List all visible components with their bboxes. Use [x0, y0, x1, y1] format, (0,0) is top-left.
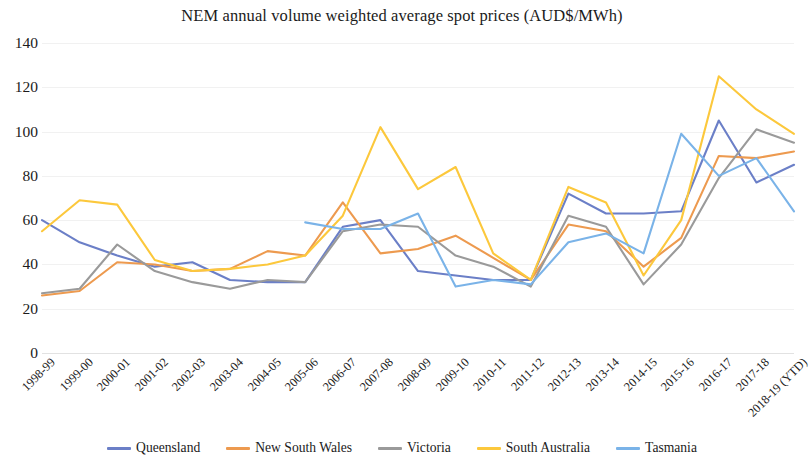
x-axis-tick-7: 2005-06	[282, 355, 322, 395]
x-axis-tick-17: 2015-16	[658, 355, 698, 395]
y-axis-tick-1: 20	[23, 300, 39, 318]
legend-label: South Australia	[506, 440, 590, 456]
x-axis-tick-5: 2003-04	[207, 355, 247, 395]
y-axis-tick-6: 120	[15, 78, 38, 96]
x-axis-tick-10: 2008-09	[395, 355, 435, 395]
legend-item-new-south-wales[interactable]: New South Wales	[226, 440, 352, 456]
x-axis-tick-15: 2013-14	[583, 355, 623, 395]
x-axis-tick-0: 1998-99	[19, 355, 59, 395]
chart-title: NEM annual volume weighted average spot …	[0, 6, 804, 26]
y-axis: 020406080100120140	[0, 43, 38, 353]
y-axis-tick-2: 40	[23, 255, 39, 273]
x-axis-tick-14: 2012-13	[545, 355, 585, 395]
x-axis-tick-8: 2006-07	[320, 355, 360, 395]
legend-item-south-australia[interactable]: South Australia	[477, 440, 590, 456]
legend-swatch-icon	[616, 447, 640, 450]
x-axis-tick-9: 2007-08	[357, 355, 397, 395]
legend-swatch-icon	[477, 447, 501, 450]
x-axis-tick-11: 2009-10	[433, 355, 473, 395]
x-axis-tick-12: 2010-11	[471, 355, 510, 394]
legend-swatch-icon	[378, 447, 402, 450]
y-axis-tick-7: 140	[15, 34, 38, 52]
x-axis-tick-6: 2004-05	[245, 355, 285, 395]
legend-label: Tasmania	[645, 440, 697, 456]
gridline-0	[42, 353, 794, 354]
legend-item-tasmania[interactable]: Tasmania	[616, 440, 697, 456]
series-line-queensland	[42, 121, 794, 283]
legend-item-queensland[interactable]: Queensland	[107, 440, 200, 456]
legend-label: New South Wales	[255, 440, 352, 456]
x-axis-tick-3: 2001-02	[132, 355, 172, 395]
series-lines	[42, 43, 794, 353]
legend-swatch-icon	[226, 447, 250, 450]
chart-legend: QueenslandNew South WalesVictoriaSouth A…	[0, 440, 804, 456]
x-axis-tick-18: 2016-17	[696, 355, 736, 395]
legend-label: Queensland	[136, 440, 200, 456]
y-axis-tick-3: 60	[23, 211, 39, 229]
x-axis-tick-13: 2011-12	[508, 355, 547, 394]
series-line-new-south-wales	[42, 152, 794, 296]
y-axis-tick-0: 0	[30, 344, 38, 362]
x-axis-tick-2: 2000-01	[94, 355, 134, 395]
y-axis-tick-5: 100	[15, 123, 38, 141]
legend-swatch-icon	[107, 447, 131, 450]
plot-area	[42, 43, 794, 353]
legend-label: Victoria	[407, 440, 451, 456]
legend-item-victoria[interactable]: Victoria	[378, 440, 451, 456]
x-axis: 1998-991999-002000-012001-022002-032003-…	[42, 355, 794, 435]
x-axis-tick-16: 2014-15	[621, 355, 661, 395]
y-axis-tick-4: 80	[23, 167, 39, 185]
x-axis-tick-1: 1999-00	[57, 355, 97, 395]
x-axis-tick-4: 2002-03	[169, 355, 209, 395]
